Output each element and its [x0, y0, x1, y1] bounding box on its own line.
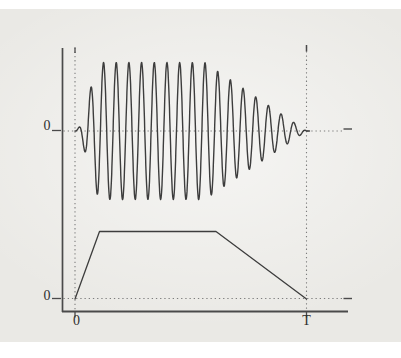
x-end-label: T [300, 313, 314, 329]
envelope-zero-label: 0 [40, 288, 54, 304]
wave-zero-label: 0 [40, 118, 54, 134]
figure-plot [0, 0, 401, 358]
figure-canvas: 0 0 0 T [0, 0, 401, 358]
trapezoid-envelope-curve [75, 232, 307, 300]
x-origin-label: 0 [70, 313, 84, 329]
